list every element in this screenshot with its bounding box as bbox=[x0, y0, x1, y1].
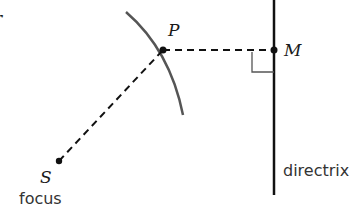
diagram-canvas: P M S focus directrix r bbox=[0, 0, 364, 210]
point-m bbox=[271, 47, 278, 54]
parabola-diagram: P M S focus directrix r bbox=[0, 0, 364, 210]
label-p: P bbox=[167, 20, 180, 40]
right-angle-marker bbox=[252, 52, 274, 72]
label-m: M bbox=[283, 40, 302, 60]
label-focus: focus bbox=[19, 189, 62, 208]
label-s: S bbox=[40, 167, 52, 187]
point-p bbox=[160, 47, 167, 54]
segment-sp bbox=[59, 50, 163, 161]
label-directrix: directrix bbox=[283, 161, 349, 180]
label-edge-fragment: r bbox=[0, 8, 3, 28]
point-s bbox=[56, 158, 62, 164]
